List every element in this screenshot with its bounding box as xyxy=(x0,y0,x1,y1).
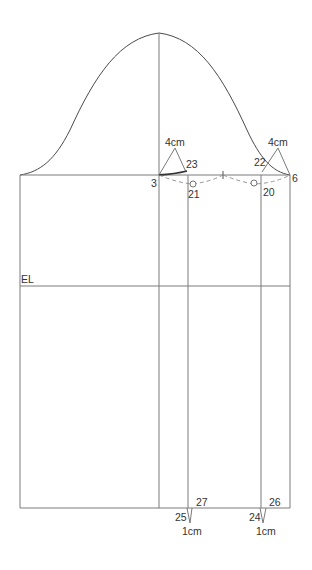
sleeve-cap-curve xyxy=(20,33,290,175)
label-point-22: 22 xyxy=(254,156,266,168)
left-bottom-dart xyxy=(187,508,192,523)
label-point-24: 24 xyxy=(249,511,261,523)
label-1cm-right: 1cm xyxy=(256,525,276,537)
label-point-26: 26 xyxy=(269,496,281,508)
label-point-20: 20 xyxy=(263,186,275,198)
label-point-3: 3 xyxy=(151,177,157,189)
right-bottom-dart xyxy=(260,508,266,523)
label-1cm-left: 1cm xyxy=(182,525,202,537)
pattern-canvas: EL 4cm 4cm 23 22 3 6 21 20 27 25 26 24 1… xyxy=(0,0,312,570)
label-4cm-right: 4cm xyxy=(268,136,288,148)
label-point-25: 25 xyxy=(175,511,187,523)
label-point-21: 21 xyxy=(188,188,200,200)
sleeve-pattern-diagram: EL 4cm 4cm 23 22 3 6 21 20 27 25 26 24 1… xyxy=(0,0,312,570)
label-point-6: 6 xyxy=(292,172,298,184)
notch-marker-21 xyxy=(190,181,196,187)
curve-3-23 xyxy=(159,171,187,175)
label-4cm-left: 4cm xyxy=(165,136,185,148)
label-point-27: 27 xyxy=(196,496,208,508)
label-point-23: 23 xyxy=(186,158,198,170)
notch-marker-20 xyxy=(251,180,257,186)
left-top-dart xyxy=(159,148,186,175)
label-el: EL xyxy=(21,273,34,285)
